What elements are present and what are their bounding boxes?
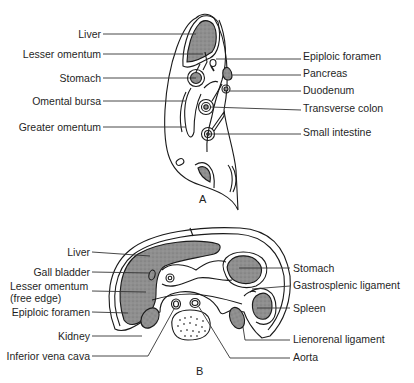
figure-b-drawing bbox=[109, 228, 290, 340]
label-b-epiploic-foramen: Epiploic foramen bbox=[12, 306, 90, 318]
label-a-lesser-omentum: Lesser omentum bbox=[23, 48, 101, 60]
label-b-liver: Liver bbox=[67, 246, 90, 258]
label-b-inferior-vena-cava: Inferior vena cava bbox=[7, 350, 90, 362]
label-a-duodenum: Duodenum bbox=[303, 84, 354, 96]
label-b-kidney: Kidney bbox=[58, 330, 90, 342]
label-b-spleen: Spleen bbox=[293, 302, 326, 314]
label-a-transverse-colon: Transverse colon bbox=[303, 102, 383, 114]
figure-a-drawing bbox=[165, 14, 238, 210]
label-a-liver: Liver bbox=[78, 28, 101, 40]
label-a-pancreas: Pancreas bbox=[303, 67, 347, 79]
label-b-gall-bladder: Gall bladder bbox=[33, 266, 90, 278]
label-a-small-intestine: Small intestine bbox=[303, 126, 371, 138]
label-b-lienorenal-ligament: Lienorenal ligament bbox=[293, 333, 385, 345]
label-b-stomach: Stomach bbox=[293, 262, 334, 274]
label-a-epiploic-foramen: Epiploic foramen bbox=[303, 50, 381, 62]
label-a-stomach: Stomach bbox=[60, 72, 101, 84]
label-b-gastrosplenic-ligament: Gastrosplenic ligament bbox=[293, 279, 400, 291]
label-b-lesser-omentum-free-edge: (free edge) bbox=[10, 292, 61, 304]
label-a-omental-bursa: Omental bursa bbox=[32, 95, 101, 107]
panel-label-b: B bbox=[196, 365, 203, 377]
label-b-aorta: Aorta bbox=[293, 351, 318, 363]
label-a-greater-omentum: Greater omentum bbox=[19, 121, 101, 133]
panel-label-a: A bbox=[199, 193, 206, 205]
label-b-lesser-omentum: Lesser omentum bbox=[10, 280, 88, 292]
